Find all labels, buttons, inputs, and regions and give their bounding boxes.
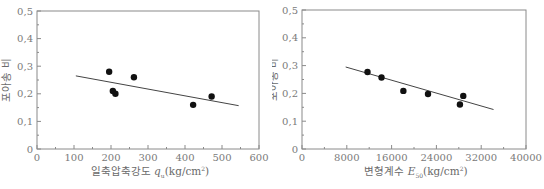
data-point <box>400 88 406 94</box>
data-point <box>457 101 463 107</box>
y-axis-title: 포아송 비 <box>0 58 12 101</box>
y-tick-label: 0,4 <box>282 32 298 43</box>
data-point <box>460 93 466 99</box>
chart-right-plot: 080001600024000320004000000,10,20,30,40,… <box>272 0 544 189</box>
data-point <box>106 69 112 75</box>
data-point <box>131 74 137 80</box>
data-point <box>364 69 370 75</box>
y-tick-label: 0,1 <box>282 116 298 127</box>
x-tick-label: 400 <box>175 152 194 163</box>
x-tick-label: 500 <box>212 152 231 163</box>
y-tick-label: 0,3 <box>17 61 33 72</box>
y-tick-label: 0,2 <box>282 88 298 99</box>
plot-frame <box>302 10 526 149</box>
y-tick-label: 0,5 <box>17 6 33 17</box>
data-point <box>112 91 118 97</box>
x-tick-label: 0 <box>34 152 40 163</box>
data-point <box>425 91 431 97</box>
plot-frame <box>37 11 259 149</box>
y-tick-label: 0 <box>292 144 298 155</box>
y-tick-label: 0,4 <box>17 33 33 44</box>
x-tick-label: 32000 <box>465 152 497 163</box>
x-tick-label: 0 <box>299 152 305 163</box>
chart-left-plot: 010020030040050060000,10,20,30,40,5일축압축강… <box>0 0 272 189</box>
trend-line <box>76 76 239 106</box>
y-tick-label: 0,2 <box>17 88 33 99</box>
x-tick-label: 8000 <box>334 152 359 163</box>
x-tick-label: 24000 <box>420 152 452 163</box>
chart-right: 080001600024000320004000000,10,20,30,40,… <box>272 0 544 189</box>
data-point <box>208 93 214 99</box>
y-axis-title: 포아송 비 <box>272 58 279 101</box>
x-tick-label: 40000 <box>510 152 542 163</box>
y-tick-label: 0,5 <box>282 5 298 16</box>
x-tick-label: 300 <box>138 152 157 163</box>
x-tick-label: 600 <box>249 152 268 163</box>
chart-left: 010020030040050060000,10,20,30,40,5일축압축강… <box>0 0 272 189</box>
x-axis-title: 일축압축강도 qu(kg/cm2) <box>91 165 209 179</box>
y-tick-label: 0,3 <box>282 60 298 71</box>
data-point <box>190 102 196 108</box>
y-tick-label: 0,1 <box>17 116 33 127</box>
x-tick-label: 200 <box>101 152 120 163</box>
data-point <box>378 74 384 80</box>
x-tick-label: 100 <box>64 152 83 163</box>
x-tick-label: 16000 <box>376 152 408 163</box>
x-axis-title: 변형계수 E50(kg/cm2) <box>364 165 467 179</box>
y-tick-label: 0 <box>27 144 33 155</box>
